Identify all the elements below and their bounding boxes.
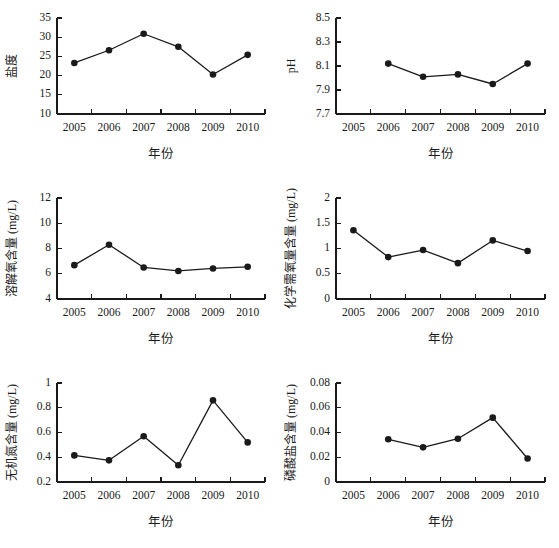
x-tick-label: 2007 — [412, 489, 435, 501]
x-axis-title: 年份 — [148, 147, 174, 161]
x-tick-label: 2010 — [236, 121, 259, 133]
y-tick-label: 0.02 — [310, 450, 330, 462]
x-tick-label: 2008 — [167, 121, 190, 133]
x-tick-label: 2007 — [412, 121, 435, 133]
data-point — [71, 60, 78, 67]
data-point — [455, 260, 462, 267]
y-tick-label: 6 — [45, 266, 51, 278]
x-tick-label: 2007 — [132, 489, 155, 501]
data-point — [524, 455, 531, 462]
data-point — [489, 414, 496, 421]
y-tick-label: 8.5 — [316, 11, 331, 23]
x-tick-label: 2006 — [98, 121, 121, 133]
y-axis-title: 化学需氧量含量 (mg/L) — [283, 188, 298, 309]
chart-panel-chemical-oxygen-demand: 00.511.52200520062007200820092010年份化学需氧量… — [279, 180, 559, 365]
data-point — [71, 262, 78, 269]
x-tick-label: 2007 — [132, 306, 155, 318]
x-tick-label: 2009 — [481, 489, 504, 501]
y-tick-label: 0.04 — [310, 425, 330, 437]
x-tick-label: 2010 — [236, 306, 259, 318]
x-tick-label: 2009 — [202, 489, 225, 501]
data-point — [210, 265, 217, 272]
x-axis-title: 年份 — [148, 332, 174, 346]
x-tick-label: 2009 — [481, 306, 504, 318]
data-point — [420, 74, 427, 81]
y-tick-label: 10 — [40, 216, 52, 228]
data-point — [420, 247, 427, 254]
y-tick-label: 15 — [40, 87, 52, 99]
chart-panel-ph: 7.77.98.18.38.5200520062007200820092010年… — [279, 0, 559, 180]
x-tick-label: 2005 — [63, 121, 86, 133]
chart-panel-inorganic-nitrogen: 0.20.40.60.81200520062007200820092010年份无… — [0, 365, 279, 548]
data-point — [244, 439, 251, 446]
data-point — [385, 60, 392, 67]
y-tick-label: 0.06 — [310, 400, 330, 412]
data-point — [106, 47, 113, 54]
y-axis-title: 盐度 — [4, 54, 19, 78]
data-point — [524, 60, 531, 67]
x-axis-title: 年份 — [148, 515, 174, 529]
y-axis-title: pH — [284, 58, 298, 73]
series-line-dissolved-oxygen — [74, 245, 247, 271]
x-tick-label: 2007 — [412, 306, 435, 318]
series-line-chemical-oxygen-demand — [353, 230, 527, 263]
x-tick-label: 2007 — [132, 121, 155, 133]
data-point — [210, 71, 217, 78]
y-tick-label: 25 — [40, 49, 52, 61]
x-tick-label: 2006 — [377, 121, 400, 133]
data-point — [420, 444, 427, 451]
data-point — [71, 452, 78, 459]
y-tick-label: 8.3 — [316, 35, 331, 47]
y-tick-label: 1 — [45, 376, 51, 388]
y-tick-label: 2 — [324, 191, 330, 203]
y-axis-title: 溶解氧含量 (mg/L) — [4, 200, 19, 297]
y-tick-label: 0 — [324, 475, 330, 487]
y-tick-label: 0.8 — [37, 400, 52, 412]
data-point — [455, 71, 462, 78]
data-point — [350, 227, 357, 234]
data-point — [140, 433, 147, 440]
data-point — [175, 44, 182, 51]
y-tick-label: 1.5 — [316, 216, 331, 228]
x-axis-title: 年份 — [428, 332, 454, 346]
data-point — [175, 462, 182, 469]
data-point — [210, 397, 217, 404]
data-point — [140, 30, 147, 37]
y-tick-label: 8.1 — [316, 59, 331, 71]
data-point — [106, 241, 113, 248]
x-tick-label: 2010 — [516, 121, 539, 133]
data-point — [244, 264, 251, 271]
y-tick-label: 8 — [45, 241, 51, 253]
y-tick-label: 7.7 — [316, 107, 331, 119]
x-tick-label: 2006 — [98, 489, 121, 501]
y-tick-label: 4 — [45, 292, 51, 304]
x-tick-label: 2008 — [446, 489, 469, 501]
y-tick-label: 10 — [40, 107, 52, 119]
data-point — [175, 268, 182, 275]
x-tick-label: 2005 — [342, 306, 365, 318]
x-tick-label: 2010 — [516, 306, 539, 318]
chart-panel-dissolved-oxygen: 4681012200520062007200820092010年份溶解氧含量 (… — [0, 180, 279, 365]
y-tick-label: 0.2 — [37, 475, 52, 487]
x-tick-label: 2006 — [377, 306, 400, 318]
data-point — [489, 81, 496, 88]
y-tick-label: 20 — [40, 68, 52, 80]
x-tick-label: 2009 — [202, 306, 225, 318]
data-point — [106, 457, 113, 464]
data-point — [455, 435, 462, 442]
data-point — [489, 237, 496, 244]
chart-panel-salinity: 101520253035200520062007200820092010年份盐度 — [0, 0, 279, 180]
series-line-salinity — [74, 34, 247, 75]
x-tick-label: 2005 — [342, 489, 365, 501]
x-tick-label: 2010 — [516, 489, 539, 501]
x-tick-label: 2006 — [377, 489, 400, 501]
x-tick-label: 2008 — [446, 306, 469, 318]
data-point — [524, 248, 531, 255]
series-line-inorganic-nitrogen — [74, 400, 247, 465]
x-tick-label: 2006 — [98, 306, 121, 318]
y-axis-title: 无机氮含量 (mg/L) — [4, 384, 19, 481]
y-tick-label: 0.08 — [310, 376, 330, 388]
x-axis-title: 年份 — [428, 515, 454, 529]
y-tick-label: 0.4 — [37, 450, 52, 462]
data-point — [385, 436, 392, 443]
